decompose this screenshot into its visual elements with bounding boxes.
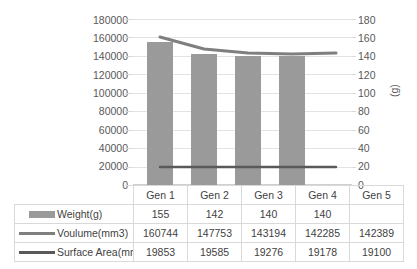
cell-volume-gen-2: 147753	[188, 224, 242, 243]
cell-surface-area-gen-4: 19178	[296, 243, 350, 262]
secondary-tick-label: 180	[358, 15, 376, 26]
secondary-tick-label: 80	[358, 106, 370, 117]
primary-tick-label: 120000	[93, 70, 128, 81]
table-row: Surface Area(mm2) 19853 19585 19276 1917…	[15, 243, 404, 262]
primary-tick-label: 40000	[99, 143, 128, 154]
chart-container: 180000 160000 140000 120000 100000 80000…	[0, 0, 417, 269]
table-header-row: Gen 1 Gen 2 Gen 3 Gen 4 Gen 5	[15, 186, 404, 205]
secondary-y-axis: 180 160 140 120 100 80 60 40 20 0	[358, 0, 398, 196]
column-header-gen-4: Gen 4	[296, 186, 350, 205]
secondary-tick-label: 60	[358, 125, 370, 136]
cell-volume-gen-3: 143194	[242, 224, 296, 243]
data-table: Gen 1 Gen 2 Gen 3 Gen 4 Gen 5 Weight(g) …	[14, 185, 404, 262]
cell-weight-gen-3: 140	[242, 205, 296, 224]
column-header-gen-1: Gen 1	[134, 186, 188, 205]
bar-swatch-icon	[29, 211, 55, 218]
cell-volume-gen-5: 142389	[350, 224, 404, 243]
cell-surface-area-gen-3: 19276	[242, 243, 296, 262]
secondary-axis-title: (g)	[388, 84, 400, 97]
primary-y-axis: 180000 160000 140000 120000 100000 80000…	[60, 0, 128, 196]
legend-row-volume: Voulume(mm3)	[15, 224, 134, 243]
secondary-tick-label: 100	[358, 88, 376, 99]
secondary-tick-label: 160	[358, 33, 376, 44]
table-corner-cell	[15, 186, 134, 205]
table-row: Voulume(mm3) 160744 147753 143194 142285…	[15, 224, 404, 243]
primary-tick-mark	[125, 74, 133, 75]
legend-row-surface-area: Surface Area(mm2)	[15, 243, 134, 262]
line-swatch-icon	[19, 251, 55, 254]
primary-tick-label: 20000	[99, 161, 128, 172]
primary-tick-label: 160000	[93, 33, 128, 44]
cell-weight-gen-5	[350, 205, 404, 224]
plot-area	[133, 19, 352, 185]
cell-volume-gen-1: 160744	[134, 224, 188, 243]
cell-weight-gen-1: 155	[134, 205, 188, 224]
primary-tick-mark	[125, 111, 133, 112]
primary-tick-mark	[125, 167, 133, 168]
legend-row-weight: Weight(g)	[15, 205, 134, 224]
line-swatch-icon	[19, 232, 55, 235]
plot-wrapper: 180000 160000 140000 120000 100000 80000…	[0, 0, 417, 196]
primary-tick-label: 100000	[93, 88, 128, 99]
cell-surface-area-gen-2: 19585	[188, 243, 242, 262]
column-header-gen-5: Gen 5	[350, 186, 404, 205]
primary-tick-label: 60000	[99, 125, 128, 136]
secondary-tick-label: 40	[358, 143, 370, 154]
secondary-tick-label: 120	[358, 70, 376, 81]
line-series-layer	[133, 19, 352, 185]
primary-tick-mark	[125, 93, 133, 94]
table-row: Weight(g) 155 142 140 140	[15, 205, 404, 224]
primary-tick-label: 80000	[99, 106, 128, 117]
series-label-volume: Voulume(mm3)	[57, 227, 128, 239]
series-label-surface-area: Surface Area(mm2)	[57, 246, 134, 258]
cell-weight-gen-2: 142	[188, 205, 242, 224]
primary-tick-label: 180000	[93, 15, 128, 26]
primary-tick-mark	[125, 148, 133, 149]
primary-tick-mark	[125, 56, 133, 57]
cell-surface-area-gen-5: 19100	[350, 243, 404, 262]
series-label-weight: Weight(g)	[57, 208, 102, 220]
primary-tick-mark	[125, 37, 133, 38]
primary-tick-mark	[125, 130, 133, 131]
primary-tick-label: 140000	[93, 51, 128, 62]
cell-weight-gen-4: 140	[296, 205, 350, 224]
cell-volume-gen-4: 142285	[296, 224, 350, 243]
primary-tick-mark	[125, 19, 133, 20]
cell-surface-area-gen-1: 19853	[134, 243, 188, 262]
secondary-tick-label: 140	[358, 51, 376, 62]
volume-line	[160, 37, 336, 54]
secondary-tick-label: 20	[358, 161, 370, 172]
column-header-gen-2: Gen 2	[188, 186, 242, 205]
column-header-gen-3: Gen 3	[242, 186, 296, 205]
